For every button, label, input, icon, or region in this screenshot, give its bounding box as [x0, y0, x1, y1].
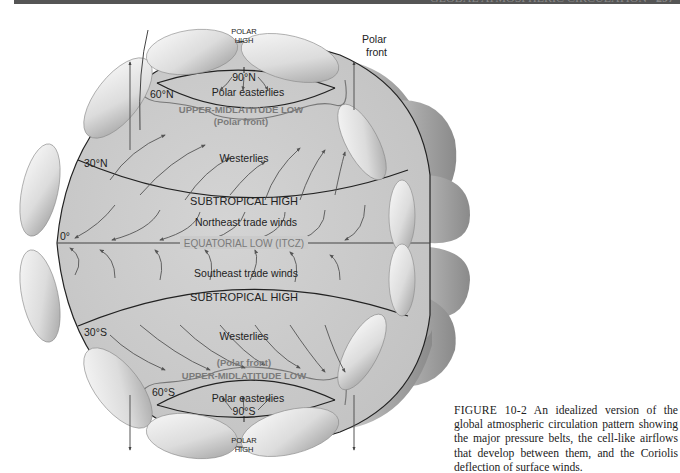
equatorial-low-label: EQUATORIAL LOW (ITCZ) [184, 238, 304, 249]
lat-30s-label: 30°S [84, 326, 107, 338]
upper-midlat-low-south-label: UPPER-MIDLATITUDE LOW [182, 370, 306, 381]
westerlies-south-label: Westerlies [220, 330, 269, 342]
polar-high-south-label-1: POLAR [231, 436, 257, 445]
lat-60s-label: 60°S [152, 386, 175, 398]
upper-midlat-low-north-label: UPPER-MIDLATITUDE LOW [179, 104, 303, 115]
polar-high-north-label-2: HIGH [235, 36, 254, 45]
lat-90s-label: 90°S [233, 405, 256, 417]
lat-0-label: 0° [60, 230, 70, 242]
subtropical-high-north-label: SUBTROPICAL HIGH [190, 195, 298, 207]
polar-front-callout-2: front [366, 46, 387, 58]
polar-easterlies-south-label: Polar easterlies [212, 392, 284, 404]
circulation-diagram: POLAR HIGH 90°N Polar easterlies 60°N UP… [0, 0, 680, 473]
lat-90n-label: 90°N [232, 71, 255, 83]
se-trades-label: Southeast trade winds [194, 267, 298, 279]
figure-caption: FIGURE 10-2 An idealized version of the … [454, 404, 678, 473]
ne-trades-label: Northeast trade winds [195, 216, 297, 228]
subtropical-high-south-label: SUBTROPICAL HIGH [190, 291, 298, 303]
polar-high-south-label-2: HIGH [235, 445, 254, 454]
lat-60n-label: 60°N [150, 88, 173, 100]
polar-front-north-label: (Polar front) [214, 116, 268, 127]
polar-easterlies-north-label: Polar easterlies [212, 86, 284, 98]
polar-high-north-label-1: POLAR [231, 27, 257, 36]
polar-front-callout-1: Polar [362, 33, 387, 45]
lat-30n-label: 30°N [84, 157, 107, 169]
westerlies-north-label: Westerlies [220, 152, 269, 164]
polar-front-south-label: (Polar front) [217, 357, 271, 368]
figure-label: FIGURE 10-2 [454, 404, 527, 417]
